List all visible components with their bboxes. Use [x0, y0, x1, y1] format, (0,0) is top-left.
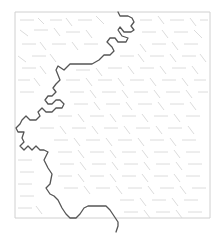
maze-canvas: [0, 0, 224, 242]
maze-graphic: [0, 0, 224, 242]
background: [0, 0, 224, 242]
